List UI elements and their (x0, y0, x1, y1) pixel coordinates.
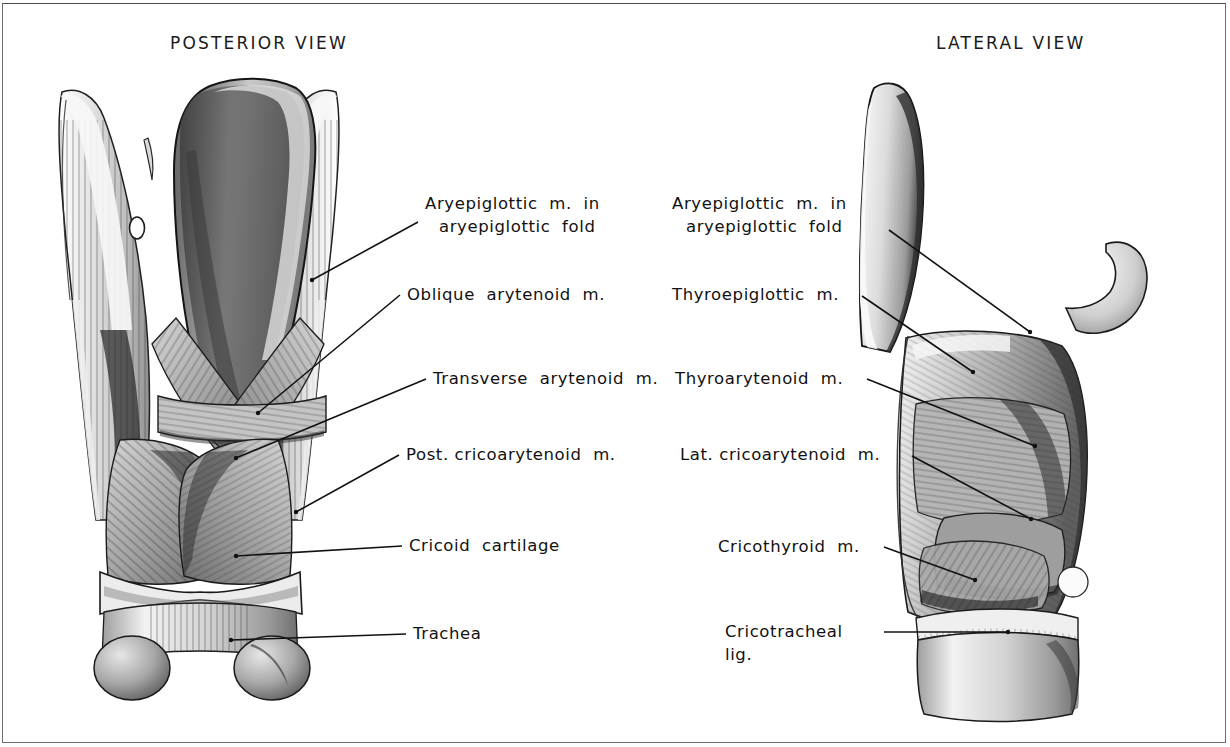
label-line-1: Post. cricoarytenoid m. (406, 445, 616, 464)
label-cricotracheal-ligament: Cricotracheallig. (725, 620, 843, 666)
label-cricothyroid-muscle: Cricothyroid m. (718, 535, 860, 558)
superior-thyroid-cornu (1066, 242, 1147, 333)
trachea-lateral (917, 633, 1079, 722)
label-cricoid-cartilage: Cricoid cartilage (409, 534, 560, 557)
label-line-1: Aryepiglottic m. in (672, 194, 847, 213)
label-line-1: Cricotracheal (725, 622, 843, 641)
label-trachea: Trachea (413, 622, 482, 645)
label-posterior-cricoarytenoid-muscle: Post. cricoarytenoid m. (406, 443, 616, 466)
label-thyroepiglottic-muscle: Thyroepiglottic m. (672, 283, 839, 306)
label-line-1: Cricothyroid m. (718, 537, 860, 556)
label-line-1: Transverse arytenoid m. (433, 369, 658, 388)
label-aryepiglottic-muscle-posterior: Aryepiglottic m. inaryepiglottic fold (425, 192, 600, 238)
label-oblique-arytenoid-muscle: Oblique arytenoid m. (407, 283, 605, 306)
label-line-2: aryepiglottic fold (425, 215, 600, 238)
label-line-1: Thyroepiglottic m. (672, 285, 839, 304)
label-line-1: Oblique arytenoid m. (407, 285, 605, 304)
epiglottis-lateral (857, 83, 930, 352)
label-line-1: Lat. cricoarytenoid m. (680, 445, 880, 464)
label-line-2: aryepiglottic fold (672, 215, 847, 238)
posterior-view-drawing (55, 79, 348, 700)
label-thyroarytenoid-muscle: Thyroarytenoid m. (675, 367, 843, 390)
label-line-1: Aryepiglottic m. in (425, 194, 600, 213)
label-aryepiglottic-muscle-lateral: Aryepiglottic m. inaryepiglottic fold (672, 192, 847, 238)
label-lateral-cricoarytenoid-muscle: Lat. cricoarytenoid m. (680, 443, 880, 466)
lateral-view-title: LATERAL VIEW (936, 33, 1086, 53)
anatomy-plate: POSTERIOR VIEW LATERAL VIEW Aryepiglotti… (0, 0, 1230, 747)
label-line-1: Thyroarytenoid m. (675, 369, 843, 388)
label-line-2: lig. (725, 643, 843, 666)
label-line-1: Trachea (413, 624, 482, 643)
posterior-view-title: POSTERIOR VIEW (170, 33, 348, 53)
lateral-view-drawing (857, 83, 1147, 721)
label-line-1: Cricoid cartilage (409, 536, 560, 555)
label-transverse-arytenoid-muscle: Transverse arytenoid m. (433, 367, 658, 390)
tubercle (1058, 567, 1088, 597)
trachea-posterior (94, 600, 310, 700)
